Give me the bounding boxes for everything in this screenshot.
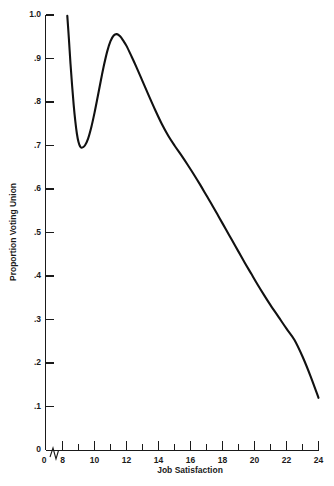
y-tick-label-0.2: .2 bbox=[34, 357, 41, 367]
y-tick-label-0.5: .5 bbox=[34, 227, 41, 237]
x-axis-break-icon bbox=[50, 448, 59, 459]
y-tick-label-0.9: .9 bbox=[34, 53, 41, 63]
line-chart-canvas: 1.0 .9 .8 .7 .6 .5 .4 .3 .2 .1 0 bbox=[0, 0, 334, 486]
y-tick-label-0.7: .7 bbox=[34, 140, 41, 150]
x-tick-label-16: 16 bbox=[186, 455, 196, 465]
chart-figure: 1.0 .9 .8 .7 .6 .5 .4 .3 .2 .1 0 bbox=[0, 0, 334, 486]
x-tick-label-22: 22 bbox=[282, 455, 292, 465]
y-axis-title: Proportion Voting Union bbox=[8, 183, 18, 281]
y-tick-label-0.4: .4 bbox=[34, 270, 41, 280]
x-tick-label-14: 14 bbox=[154, 455, 164, 465]
x-tick-label-12: 12 bbox=[122, 455, 132, 465]
x-tick-label-10: 10 bbox=[90, 455, 100, 465]
y-axis-ticks bbox=[46, 15, 55, 407]
x-axis-major-ticks bbox=[63, 441, 319, 451]
x-tick-label-18: 18 bbox=[218, 455, 228, 465]
y-tick-label-0.3: .3 bbox=[34, 314, 41, 324]
y-tick-label-0: 0 bbox=[36, 444, 41, 454]
y-tick-label-0.8: .8 bbox=[34, 96, 41, 106]
data-series-proportion-voting-union bbox=[67, 16, 318, 398]
y-tick-label-0.1: .1 bbox=[34, 401, 41, 411]
y-tick-label-1.0: 1.0 bbox=[29, 9, 41, 19]
x-tick-label-origin: 0 bbox=[42, 455, 47, 465]
y-tick-label-0.6: .6 bbox=[34, 183, 41, 193]
x-tick-label-20: 20 bbox=[250, 455, 260, 465]
x-axis-title: Job Satisfaction bbox=[157, 465, 223, 475]
x-tick-label-24: 24 bbox=[314, 455, 324, 465]
x-tick-label-8: 8 bbox=[60, 455, 65, 465]
